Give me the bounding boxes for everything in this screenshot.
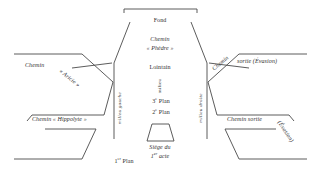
label-chemin-aricie-word: Chemin <box>25 62 44 69</box>
label-siege-line1: Siège du <box>149 144 170 151</box>
stage-plan-diagram: Fond Chemin « Phèdre » Lointain milieu 3… <box>0 0 321 174</box>
sortie-diagonal-short <box>289 115 294 121</box>
label-milieu-gauche: milieu gauche <box>117 92 123 124</box>
first-plan-left-wall <box>14 129 96 159</box>
label-milieu-droite: milieu droite <box>198 93 204 122</box>
label-milieu-centre: milieu <box>157 79 163 94</box>
fond-bracket-line <box>124 9 197 13</box>
label-chemin-phedre-word: Chemin <box>150 36 169 43</box>
label-siege-line2: 1er acte <box>151 153 170 160</box>
first-plan-right-wall <box>225 129 307 159</box>
label-chemin-sortie-evasion-rest: sortie (Évasion) <box>237 58 277 65</box>
label-chemin-hippolyte: Chemin « Hippolyte » <box>32 116 87 123</box>
label-chemin-sortie-low: Chemin sortie <box>227 116 262 123</box>
label-plan-1: 1er Plan <box>114 158 133 165</box>
aricie-diagonal-outer <box>82 54 113 82</box>
hippolyte-wall-upper <box>32 82 113 115</box>
label-plan-2: 2e Plan <box>152 109 170 116</box>
label-fond: Fond <box>154 17 167 24</box>
label-lointain: Lointain <box>149 64 170 71</box>
siege-trapezoid <box>147 124 174 141</box>
plan-2-word: Plan <box>157 109 170 115</box>
plan-3-word: Plan <box>157 98 170 104</box>
label-plan-3: 3e Plan <box>152 98 170 105</box>
sortie-wall-upper <box>208 82 289 115</box>
siege-word: acte <box>157 153 169 159</box>
plan-1-word: Plan <box>121 158 134 164</box>
aricie-diagonal-inner <box>72 63 112 68</box>
label-chemin-phedre-name: « Phèdre » <box>146 45 173 52</box>
